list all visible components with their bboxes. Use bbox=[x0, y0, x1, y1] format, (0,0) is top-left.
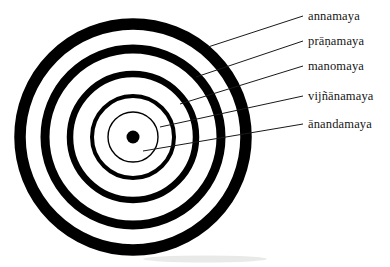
scan-artifact-smudge bbox=[143, 256, 267, 263]
label-annamaya: annamaya bbox=[308, 9, 360, 23]
kosha-diagram-canvas: annamaya prāṇamaya manomaya vijñānamaya … bbox=[0, 0, 390, 267]
label-vijnanamaya: vijñānamaya bbox=[308, 89, 374, 103]
kosha-diagram: annamaya prāṇamaya manomaya vijñānamaya … bbox=[0, 0, 390, 267]
label-manomaya: manomaya bbox=[308, 59, 364, 73]
center-dot-atman bbox=[127, 131, 140, 144]
label-anandamaya: ānandamaya bbox=[308, 117, 372, 131]
label-pranamaya: prāṇamaya bbox=[308, 34, 364, 48]
